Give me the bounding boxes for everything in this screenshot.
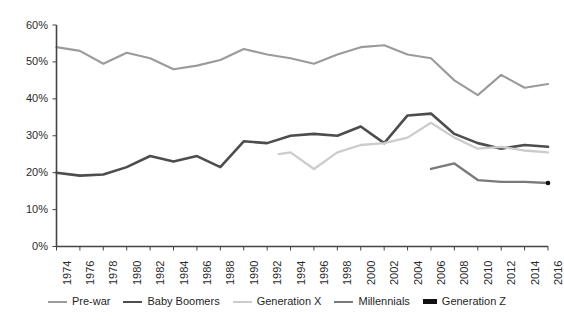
series-line-generation-x [279, 123, 548, 169]
legend-item-pre-war[interactable]: Pre-war [48, 296, 111, 307]
x-tick-label: 1976 [85, 260, 96, 284]
y-tick-label: 60% [4, 20, 48, 31]
legend-label-baby-boomers: Baby Boomers [147, 296, 219, 307]
legend-label-pre-war: Pre-war [72, 296, 111, 307]
series-line-pre-war [57, 45, 549, 95]
series-point-generation-z [546, 181, 551, 186]
legend-item-generation-x[interactable]: Generation X [233, 296, 322, 307]
legend-item-millennials[interactable]: Millennials [334, 296, 409, 307]
x-tick-label: 1998 [342, 260, 353, 284]
x-tick-label: 1988 [225, 260, 236, 284]
x-tick-label: 2010 [483, 260, 494, 284]
x-tick-label: 2016 [553, 260, 564, 284]
series-line-baby-boomers [57, 114, 549, 176]
x-tick-label: 2004 [413, 260, 424, 284]
y-tick-label: 30% [4, 130, 48, 141]
x-tick-label: 1994 [296, 260, 307, 284]
x-tick-label: 2006 [436, 260, 447, 284]
legend-item-baby-boomers[interactable]: Baby Boomers [123, 296, 219, 307]
y-tick-label: 40% [4, 93, 48, 104]
legend-swatch-pre-war [48, 301, 67, 303]
legend-swatch-baby-boomers [123, 301, 142, 303]
y-tick-label: 10% [4, 204, 48, 215]
x-tick-label: 1980 [132, 260, 143, 284]
x-tick-label: 2008 [459, 260, 470, 284]
x-tick-label: 1996 [319, 260, 330, 284]
y-tick-label: 20% [4, 167, 48, 178]
series-line-millennials [431, 163, 548, 183]
legend-label-generation-x: Generation X [257, 296, 322, 307]
legend-swatch-generation-z [423, 299, 437, 304]
x-tick-label: 2000 [366, 260, 377, 284]
x-tick-label: 2002 [389, 260, 400, 284]
legend-label-millennials: Millennials [358, 296, 409, 307]
y-tick-label: 50% [4, 56, 48, 67]
legend-swatch-millennials [334, 301, 353, 303]
tickmark-layer [53, 25, 549, 251]
x-tick-label: 1982 [155, 260, 166, 284]
x-tick-label: 2012 [506, 260, 517, 284]
x-tick-label: 1992 [272, 260, 283, 284]
legend-item-generation-z[interactable]: Generation Z [423, 296, 506, 307]
x-tick-label: 1978 [108, 260, 119, 284]
chart-legend: Pre-warBaby BoomersGeneration XMillennia… [0, 296, 554, 307]
legend-label-generation-z: Generation Z [442, 296, 506, 307]
x-tick-label: 1984 [179, 260, 190, 284]
x-tick-label: 1986 [202, 260, 213, 284]
legend-swatch-generation-x [233, 301, 252, 303]
x-tick-label: 2014 [530, 260, 541, 284]
x-tick-label: 1974 [62, 260, 73, 284]
x-tick-label: 1990 [249, 260, 260, 284]
series-layer [57, 45, 551, 185]
y-tick-label: 0% [4, 241, 48, 252]
